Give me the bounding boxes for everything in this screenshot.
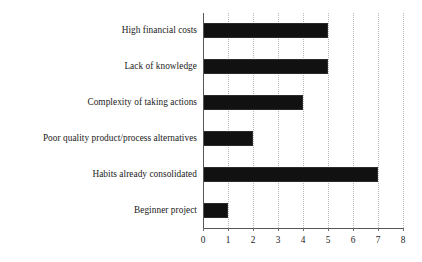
category-label: Beginner project [0, 205, 197, 216]
x-tick-label-2: 2 [242, 234, 264, 246]
x-tick-mark-1 [228, 228, 229, 231]
x-tick-label-1: 1 [217, 234, 239, 246]
x-tick-label-4: 4 [292, 234, 314, 246]
gridline-x-4 [303, 13, 304, 228]
bar-chart: High financial costsLack of knowledgeCom… [0, 0, 422, 262]
y-axis-line [203, 13, 204, 229]
gridline-x-3 [278, 13, 279, 228]
category-label: Poor quality product/process alternative… [0, 133, 197, 144]
gridline-x-5 [328, 13, 329, 228]
x-tick-mark-7 [378, 228, 379, 231]
gridline-x-7 [378, 13, 379, 228]
category-label: High financial costs [0, 25, 197, 36]
x-tick-mark-0 [203, 228, 204, 231]
category-label: Habits already consolidated [0, 169, 197, 180]
bar [203, 131, 253, 146]
x-tick-mark-8 [403, 228, 404, 231]
x-tick-label-3: 3 [267, 234, 289, 246]
gridline-x-1 [228, 13, 229, 228]
gridline-x-2 [253, 13, 254, 228]
bar [203, 59, 328, 74]
x-tick-mark-5 [328, 228, 329, 231]
x-tick-label-5: 5 [317, 234, 339, 246]
gridline-x-6 [353, 13, 354, 228]
bar [203, 203, 228, 218]
plot-area [203, 13, 403, 228]
x-tick-mark-6 [353, 228, 354, 231]
x-tick-label-7: 7 [367, 234, 389, 246]
category-axis-labels: High financial costsLack of knowledgeCom… [0, 13, 200, 228]
bar [203, 23, 328, 38]
category-label: Lack of knowledge [0, 61, 197, 72]
x-tick-mark-3 [278, 228, 279, 231]
bar [203, 95, 303, 110]
bar [203, 167, 378, 182]
x-tick-label-8: 8 [392, 234, 414, 246]
x-tick-label-0: 0 [192, 234, 214, 246]
category-label: Complexity of taking actions [0, 97, 197, 108]
x-tick-mark-2 [253, 228, 254, 231]
x-tick-mark-4 [303, 228, 304, 231]
gridline-x-8 [403, 13, 404, 228]
x-tick-label-6: 6 [342, 234, 364, 246]
